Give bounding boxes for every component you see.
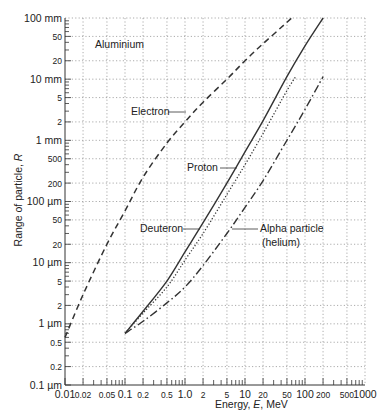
y-tick-label: 2 xyxy=(57,301,62,311)
y-tick-label: 10 µm xyxy=(33,256,63,268)
x-tick-label: 0.2 xyxy=(137,390,149,400)
y-tick-label: 20 xyxy=(53,240,63,250)
x-tick-label: 1.0 xyxy=(178,388,193,400)
x-axis-title: Energy, E, MeV xyxy=(215,398,288,410)
x-tick-label: 100 xyxy=(296,388,314,400)
x-tick-label: 0.05 xyxy=(99,390,116,400)
deuteron-label: Deuteron xyxy=(140,222,183,234)
x-tick-label: 0.5 xyxy=(161,390,173,400)
proton-label: Proton xyxy=(187,161,218,173)
curve-electron xyxy=(65,18,292,337)
electron-label: Electron xyxy=(131,105,170,117)
material-label: Aluminium xyxy=(95,38,144,50)
y-tick-label: 0.1 µm xyxy=(30,379,63,391)
y-axis-ticks: 100 mm502010 mm521 mm500200100 µm502010 … xyxy=(24,12,71,391)
y-axis-title: Range of particle, R xyxy=(12,153,24,246)
alpha-label: Alpha particle xyxy=(260,222,324,234)
y-tick-label: 0.5 xyxy=(50,338,62,348)
y-tick-label: 50 xyxy=(53,32,63,42)
x-tick-label: 500 xyxy=(340,390,354,400)
y-tick-label: 5 xyxy=(57,277,62,287)
y-tick-label: 100 µm xyxy=(27,195,62,207)
alpha-sublabel: (helium) xyxy=(262,236,300,248)
x-tick-label: 0.1 xyxy=(118,388,133,400)
y-tick-label: 1 mm xyxy=(36,134,63,146)
data-curves xyxy=(65,18,323,337)
x-axis-ticks: 0.010.020.050.10.20.51.02510205010020050… xyxy=(55,378,377,400)
x-tick-label: 2 xyxy=(201,390,206,400)
x-tick-label: 1000 xyxy=(353,388,377,400)
y-tick-label: 20 xyxy=(53,56,63,66)
y-tick-label: 100 mm xyxy=(24,12,62,24)
y-tick-label: 1 µm xyxy=(38,317,62,329)
curve-proton xyxy=(125,18,323,333)
x-tick-label: 200 xyxy=(316,390,330,400)
y-tick-label: 2 xyxy=(57,117,62,127)
grid-lines xyxy=(65,18,365,385)
y-tick-label: 10 mm xyxy=(30,73,62,85)
y-tick-label: 500 xyxy=(48,154,62,164)
range-energy-chart: 0.010.020.050.10.20.51.02510205010020050… xyxy=(0,0,390,417)
x-tick-label: 0.02 xyxy=(75,390,92,400)
y-tick-label: 0.2 xyxy=(50,362,62,372)
y-tick-label: 200 xyxy=(48,179,62,189)
y-tick-label: 50 xyxy=(53,215,63,225)
y-tick-label: 5 xyxy=(57,93,62,103)
